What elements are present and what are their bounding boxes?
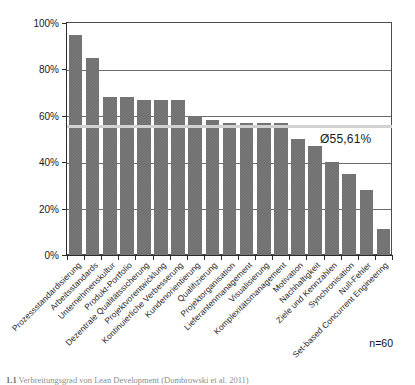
x-axis-category-label: Lieferantenmanagement bbox=[105, 260, 253, 385]
x-axis-category-label: Projektorganisation bbox=[88, 260, 236, 385]
x-axis-category-label: Komplexitätsmanagement bbox=[139, 260, 287, 385]
y-axis-label: 20% bbox=[0, 203, 59, 214]
bar bbox=[188, 116, 202, 255]
y-axis-tick bbox=[62, 162, 67, 163]
bar bbox=[360, 190, 374, 255]
y-axis-label: 100% bbox=[0, 18, 59, 29]
y-axis-label: 80% bbox=[0, 64, 59, 75]
x-axis bbox=[66, 255, 393, 256]
bar bbox=[86, 58, 100, 255]
x-axis-category-label: Nachhaltigkeit bbox=[174, 260, 322, 385]
x-axis-category-label: Motivation bbox=[156, 260, 304, 385]
bar bbox=[223, 123, 237, 255]
x-axis-category-label: Null-Fehler bbox=[225, 260, 373, 385]
bar bbox=[120, 97, 134, 255]
y-axis-tick bbox=[62, 116, 67, 117]
y-axis-label: 40% bbox=[0, 157, 59, 168]
x-axis-category-label: Produkt-Portfolio bbox=[0, 260, 134, 385]
y-axis-tick bbox=[62, 23, 67, 24]
bar bbox=[206, 120, 220, 255]
bar bbox=[342, 174, 356, 255]
x-axis-category-label: Kundenorientierung bbox=[54, 260, 202, 385]
figure-container: Ø55,61% 0%20%40%60%80%100% Prozessstanda… bbox=[0, 0, 415, 385]
bar bbox=[69, 35, 83, 255]
bar bbox=[274, 123, 288, 255]
y-axis-label: 0% bbox=[0, 250, 59, 261]
caption-text: Verbreitungsgrad von Lean Development (D… bbox=[19, 375, 249, 385]
x-axis-category-label: Synchronisation bbox=[208, 260, 356, 385]
x-axis-category-label: Arbeitsstandards bbox=[0, 260, 100, 385]
x-axis-category-label: Projektvorentwicklung bbox=[20, 260, 168, 385]
y-axis-tick bbox=[62, 209, 67, 210]
bar bbox=[240, 123, 254, 255]
bar bbox=[103, 97, 117, 255]
caption-number: 1.1 bbox=[6, 375, 17, 385]
figure-caption: 1.1 Verbreitungsgrad von Lean Developmen… bbox=[6, 375, 249, 385]
average-line bbox=[67, 125, 392, 128]
bar bbox=[137, 100, 151, 255]
x-axis-category-label: Dezentrale Qualitätssicherung bbox=[3, 260, 151, 385]
average-line-label: Ø55,61% bbox=[320, 132, 371, 146]
y-axis-tick bbox=[62, 255, 67, 256]
bar bbox=[325, 162, 339, 255]
y-axis-tick bbox=[62, 69, 67, 70]
x-axis-category-label: Qualifizierung bbox=[71, 260, 219, 385]
x-axis-category-label: Prozessstandardisierung bbox=[0, 260, 83, 385]
x-axis-category-label: Kontinuierliche Verbesserung bbox=[37, 260, 185, 385]
bar bbox=[377, 229, 391, 255]
x-axis-category-label: Visualisierung bbox=[122, 260, 270, 385]
sample-size-note: n=60 bbox=[369, 337, 393, 349]
bar bbox=[154, 100, 168, 255]
bar bbox=[171, 100, 185, 255]
bar bbox=[291, 139, 305, 255]
y-axis-label: 60% bbox=[0, 110, 59, 121]
x-axis-category-label: Unternehmenskultur bbox=[0, 260, 117, 385]
bar bbox=[257, 123, 271, 255]
x-axis-category-label: Set-based Concurrent Engineering bbox=[242, 260, 390, 385]
bar bbox=[308, 146, 322, 255]
y-axis bbox=[66, 22, 67, 256]
x-axis-category-label: Ziele und Kennzahlen bbox=[191, 260, 339, 385]
